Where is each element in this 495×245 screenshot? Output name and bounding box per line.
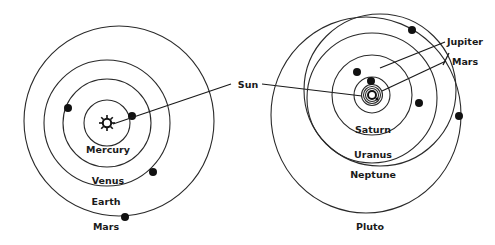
pluto-planet [455, 112, 463, 120]
sun-leader-left [113, 84, 231, 124]
jupiter-leader [380, 42, 445, 68]
saturn-planet [353, 68, 361, 76]
mercury-label: Mercury [86, 144, 131, 155]
solar-system-diagram: Mercury Venus Earth Mars Sun Jupiter Mar… [0, 0, 495, 245]
mars-label: Mars [93, 221, 120, 232]
outer-solar-system: Jupiter Mars Saturn Uranus Neptune Pluto [271, 14, 483, 232]
venus-planet [64, 104, 72, 112]
inner-solar-system: Mercury Venus Earth Mars [24, 26, 214, 232]
neptune-orbit [304, 14, 456, 166]
inner-orbit-3 [362, 85, 383, 106]
earth-planet [149, 168, 157, 176]
saturn-label: Saturn [355, 124, 391, 135]
earth-label: Earth [92, 196, 121, 207]
mercury-orbit [84, 100, 130, 146]
neptune-planet [408, 26, 416, 34]
mars-planet [121, 213, 129, 221]
sun-leader-right [262, 84, 362, 96]
pluto-label: Pluto [356, 221, 385, 232]
mars-planet-small [376, 98, 379, 101]
jupiter-label: Jupiter [446, 36, 483, 47]
mars-orbit [24, 26, 214, 216]
saturn-orbit [332, 55, 412, 135]
venus-label: Venus [92, 175, 125, 186]
mars-label-outer: Mars [452, 56, 479, 67]
neptune-label: Neptune [350, 169, 396, 180]
sun-icon-small [368, 91, 376, 99]
sun-icon [99, 115, 115, 131]
uranus-planet [415, 99, 423, 107]
sun-label: Sun [238, 79, 259, 90]
jupiter-planet [367, 77, 375, 85]
uranus-label: Uranus [354, 149, 392, 160]
